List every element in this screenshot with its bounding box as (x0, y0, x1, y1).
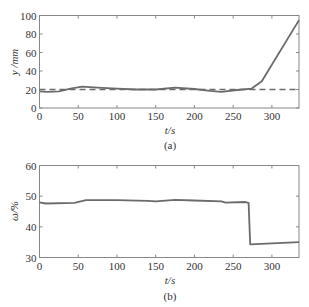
x-tick-label: 300 (264, 110, 281, 122)
plot-frame-a (40, 16, 300, 109)
data-lines-a (40, 20, 300, 92)
axis-ticks-a: 050100150200250300020406080100 (20, 10, 299, 123)
x-tick-label: 100 (109, 260, 126, 272)
y-tick-label: 50 (26, 190, 38, 202)
caption-a: (a) (164, 139, 177, 152)
y-tick-label: 20 (26, 84, 38, 96)
x-tick-label: 0 (37, 260, 43, 272)
figure: 050100150200250300020406080100 t/s (a) y… (0, 0, 309, 307)
data-lines-b (40, 200, 300, 245)
x-tick-label: 150 (147, 260, 164, 272)
chart-panel-a: 050100150200250300020406080100 t/s (a) y… (8, 10, 299, 153)
x-tick-label: 200 (186, 260, 203, 272)
y-tick-label: 0 (31, 102, 37, 114)
series-line-moisture (40, 200, 300, 245)
x-tick-label: 100 (109, 110, 126, 122)
x-tick-label: 300 (264, 260, 281, 272)
y-tick-label: 30 (26, 252, 38, 264)
chart-panel-b: 05010015020025030030405060 t/s (b) ω/% (8, 160, 299, 304)
x-tick-label: 150 (147, 110, 164, 122)
x-tick-label: 50 (73, 260, 85, 272)
axis-ticks-b: 05010015020025030030405060 (26, 160, 300, 272)
x-axis-label-b: t/s (165, 274, 175, 286)
y-tick-label: 80 (26, 28, 38, 40)
x-tick-label: 250 (225, 110, 242, 122)
x-tick-label: 250 (225, 260, 242, 272)
y-tick-label: 40 (26, 221, 38, 233)
y-tick-label: 40 (26, 65, 38, 77)
series-line-actual (40, 20, 300, 92)
x-axis-label-a: t/s (165, 124, 175, 136)
x-tick-label: 0 (37, 110, 43, 122)
y-axis-label-b: ω/% (8, 201, 20, 221)
x-tick-label: 50 (73, 110, 85, 122)
y-tick-label: 100 (20, 10, 37, 22)
caption-b: (b) (164, 290, 177, 303)
y-tick-label: 60 (26, 47, 38, 59)
x-tick-label: 200 (186, 110, 203, 122)
y-axis-label-a: y /mm (8, 49, 20, 77)
y-tick-label: 60 (26, 160, 38, 172)
